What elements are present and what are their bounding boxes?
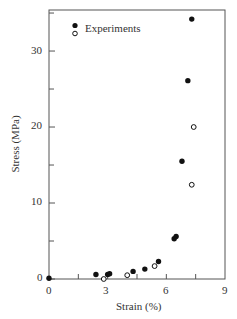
data-point <box>125 273 130 278</box>
data-point <box>191 125 196 130</box>
legend-open-marker-icon <box>73 31 78 36</box>
data-point <box>107 271 112 276</box>
y-axis-label: Stress (MPa) <box>9 115 21 172</box>
data-point <box>130 269 135 274</box>
data-point <box>189 16 194 21</box>
data-point <box>46 276 51 281</box>
data-point <box>101 277 106 282</box>
data-points <box>46 16 196 281</box>
data-point <box>173 234 178 239</box>
data-point <box>142 266 147 271</box>
x-tick-label-3: 3 <box>103 284 109 296</box>
legend-label: Experiments <box>85 22 141 34</box>
x-axis-label: Strain (%) <box>116 300 162 312</box>
data-point <box>185 78 190 83</box>
data-point <box>93 272 98 277</box>
data-point <box>189 182 194 187</box>
data-point <box>152 264 157 269</box>
y-tick-label-10: 10 <box>31 195 42 207</box>
x-tick-label-9: 9 <box>222 284 228 296</box>
y-tick-label-20: 20 <box>31 119 42 131</box>
data-point <box>156 259 161 264</box>
data-point <box>179 159 184 164</box>
y-tick-label-0: 0 <box>37 271 43 283</box>
legend-filled-marker-icon <box>72 23 77 28</box>
x-tick-label-6: 6 <box>163 284 169 296</box>
y-tick-label-30: 30 <box>31 44 42 56</box>
x-tick-label-0: 0 <box>46 284 52 296</box>
plot-frame <box>49 10 225 279</box>
